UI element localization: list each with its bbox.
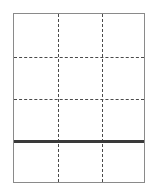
grid-frame [13,13,145,183]
row-divider-bold [14,140,144,143]
row-divider-2 [14,99,144,100]
column-divider-1 [58,14,59,182]
row-divider-1 [14,57,144,58]
column-divider-2 [102,14,103,182]
